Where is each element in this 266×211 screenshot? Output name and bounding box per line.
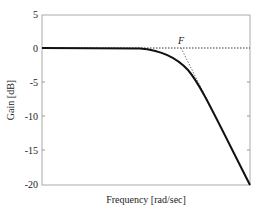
ytick-minus20: -20 — [25, 179, 38, 190]
ytick-0: 0 — [33, 43, 38, 54]
plot-frame — [42, 15, 250, 185]
corner-label: F — [177, 35, 185, 46]
gain-curve — [42, 48, 250, 185]
ytick-minus5: -5 — [30, 77, 38, 88]
ytick-minus15: -15 — [25, 145, 38, 156]
gain-plot: 5 0 -5 -10 -15 -20 F Frequency [rad/sec]… — [0, 0, 266, 211]
ytick-minus10: -10 — [25, 111, 38, 122]
y-axis-label: Gain [dB] — [5, 80, 16, 120]
x-axis-label: Frequency [rad/sec] — [106, 194, 186, 205]
ytick-5: 5 — [33, 9, 38, 20]
